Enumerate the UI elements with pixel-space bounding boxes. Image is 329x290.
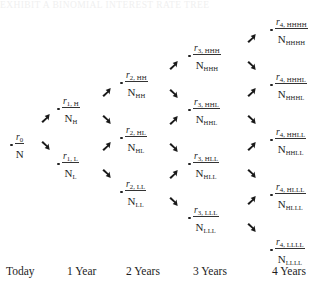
- node-value-denominator: NH: [62, 108, 80, 125]
- arrow-up-right-icon: [246, 195, 257, 206]
- axis-label-today: Today: [6, 265, 35, 277]
- node-value-subscript: LL: [136, 201, 144, 208]
- arrow-down-right-icon: [101, 114, 112, 125]
- node-value-subscript: HH: [136, 92, 146, 99]
- binomial-tree-figure: EXHIBIT A BINOMIAL INTEREST RATE TREE r0…: [0, 0, 329, 290]
- node-rate-numerator: r4, LLLL: [275, 232, 305, 249]
- arrow-up-right-icon: [168, 115, 179, 126]
- node-dot-icon: [57, 163, 60, 166]
- axis-label-3-years: 3 Years: [193, 265, 227, 277]
- node-rate-numerator: r4, HLLL: [275, 177, 306, 194]
- node-value-subscript: H: [72, 118, 77, 125]
- node-fraction: r3, HHHNHHH: [193, 38, 221, 72]
- tree-node-n0: r0N: [10, 127, 24, 161]
- node-rate-subscript: 4, HLLL: [280, 186, 305, 193]
- arrow-down-right-icon: [40, 140, 51, 151]
- node-rate-subscript: 1, H: [67, 100, 79, 107]
- arrow-down-right-icon: [168, 196, 179, 207]
- node-dot-icon: [270, 139, 273, 142]
- node-dot-icon: [120, 137, 123, 140]
- tree-node-n1L: r1, LNL: [57, 146, 79, 180]
- node-dot-icon: [188, 163, 191, 166]
- tree-node-n2HL: r2, HLNHL: [120, 120, 147, 154]
- node-dot-icon: [188, 217, 191, 220]
- node-dot-icon: [188, 109, 191, 112]
- node-rate-numerator: r4, HHLL: [275, 122, 306, 139]
- tree-node-n3HHL: r3, HHLNHHL: [188, 92, 220, 126]
- node-fraction: r4, HHLLNHHLL: [275, 122, 306, 156]
- node-fraction: r4, HHHHNHHHH: [275, 12, 308, 46]
- node-rate-subscript: 3, HHL: [198, 101, 219, 108]
- node-fraction: r4, LLLLNLLLL: [275, 232, 305, 266]
- node-fraction: r3, HHLNHHL: [193, 92, 220, 126]
- node-dot-icon: [270, 249, 273, 252]
- node-fraction: r3, LLLNLLL: [193, 200, 219, 234]
- node-value-subscript: HLL: [204, 173, 217, 180]
- node-fraction: r2, LLNLL: [125, 174, 146, 208]
- node-fraction: r1, HNH: [62, 91, 80, 125]
- arrow-down-right-icon: [246, 114, 257, 125]
- node-value-denominator: NLLL: [193, 217, 219, 234]
- node-rate-numerator: r1, H: [62, 91, 80, 108]
- node-rate-subscript: 4, HHHL: [280, 76, 306, 83]
- node-value-subscript: HLLL: [286, 204, 303, 211]
- node-rate-numerator: r3, LLL: [193, 200, 219, 217]
- arrow-down-right-icon: [101, 168, 112, 179]
- node-rate-subscript: 3, HLL: [198, 155, 219, 162]
- node-value-denominator: NHLLL: [275, 194, 306, 211]
- node-value-denominator: NHHL: [193, 109, 220, 126]
- node-value-denominator: NHHH: [193, 55, 221, 72]
- tree-node-n1H: r1, HNH: [57, 91, 80, 125]
- arrow-down-right-icon: [246, 60, 257, 71]
- node-value-subscript: HHH: [204, 65, 219, 72]
- node-value-subscript: HHHH: [286, 39, 305, 46]
- tree-node-n4LLLL: r4, LLLLNLLLL: [270, 232, 305, 266]
- arrow-up-right-icon: [168, 60, 179, 71]
- tree-node-n4HHHL: r4, HHHLNHHHL: [270, 67, 307, 101]
- node-value-denominator: NHLL: [193, 163, 219, 180]
- tree-node-n3HHH: r3, HHHNHHH: [188, 38, 221, 72]
- arrow-up-right-icon: [168, 169, 179, 180]
- tree-node-n2LL: r2, LLNLL: [120, 174, 146, 208]
- arrow-up-right-icon: [101, 87, 112, 98]
- tree-node-n3HLL: r3, HLLNHLL: [188, 146, 219, 180]
- axis-label-1-year: 1 Year: [67, 265, 96, 277]
- node-dot-icon: [120, 191, 123, 194]
- node-rate-numerator: r1, L: [62, 146, 79, 163]
- node-rate-numerator: r4, HHHH: [275, 12, 308, 29]
- tree-node-n4HHLL: r4, HHLLNHHLL: [270, 122, 306, 156]
- node-fraction: r1, LNL: [62, 146, 79, 180]
- node-value-subscript: HHLL: [286, 149, 304, 156]
- arrow-up-right-icon: [246, 33, 257, 44]
- node-rate-subscript: 1, L: [67, 155, 78, 162]
- node-rate-subscript: 4, HHLL: [280, 131, 306, 138]
- cut-off-caption: EXHIBIT A BINOMIAL INTEREST RATE TREE: [0, 0, 329, 11]
- arrow-down-right-icon: [168, 88, 179, 99]
- node-rate-subscript: 4, LLLL: [280, 241, 304, 248]
- node-value-denominator: N: [15, 144, 24, 161]
- node-dot-icon: [57, 108, 60, 111]
- node-rate-numerator: r3, HLL: [193, 146, 219, 163]
- node-fraction: r3, HLLNHLL: [193, 146, 219, 180]
- node-value-denominator: NHHHH: [275, 29, 308, 46]
- node-rate-numerator: r2, HL: [125, 120, 147, 137]
- arrow-up-right-icon: [40, 113, 51, 124]
- arrow-down-right-icon: [246, 168, 257, 179]
- node-dot-icon: [270, 29, 273, 32]
- axis-label-2-years: 2 Years: [126, 265, 160, 277]
- arrow-up-right-icon: [246, 87, 257, 98]
- axis-label-4-years: 4 Years: [272, 265, 306, 277]
- node-rate-subscript: 4, HHHH: [280, 21, 307, 28]
- node-dot-icon: [188, 55, 191, 58]
- node-value-denominator: NL: [62, 163, 79, 180]
- node-value-subscript: L: [72, 173, 76, 180]
- tree-node-n3LLL: r3, LLLNLLL: [188, 200, 219, 234]
- arrow-down-right-icon: [246, 222, 257, 233]
- arrow-down-right-icon: [168, 142, 179, 153]
- tree-node-n4HLLL: r4, HLLLNHLLL: [270, 177, 306, 211]
- node-rate-subscript: 2, HH: [130, 74, 147, 81]
- node-value-subscript: HL: [136, 147, 145, 154]
- node-value-denominator: NLLLL: [275, 249, 305, 266]
- node-rate-subscript: 2, HL: [130, 129, 146, 136]
- node-dot-icon: [120, 82, 123, 85]
